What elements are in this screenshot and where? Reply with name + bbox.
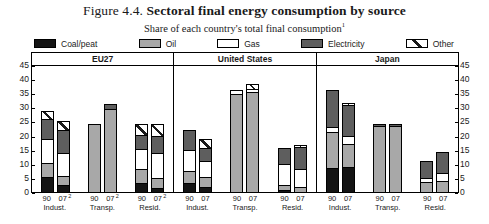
oil-segment — [89, 125, 100, 192]
x-year-label: 90 — [88, 194, 101, 203]
gas-segment — [295, 170, 306, 189]
y-axis-tick-mark — [455, 122, 458, 123]
gas-segment — [200, 162, 211, 178]
x-year-label: 07 — [437, 194, 450, 203]
x-group: 9007Transp. — [373, 194, 402, 220]
y-axis-tick-label: 0 — [3, 188, 29, 196]
y-axis-tick-label: 45 — [460, 61, 486, 69]
x-year-row: 9007 — [326, 194, 355, 203]
oil-segment — [437, 182, 448, 192]
bar-groups — [174, 66, 315, 193]
y-axis-tick-mark — [32, 151, 35, 152]
x-group: 9007Indust. — [183, 194, 212, 220]
y-axis-tick-mark — [455, 151, 458, 152]
oil-segment — [374, 127, 385, 192]
oil-segment — [105, 110, 116, 192]
y-axis-tick-label: 35 — [460, 89, 486, 97]
y-axis-tick-label: 25 — [460, 117, 486, 125]
figure-subtitle: Share of each country's total final cons… — [0, 21, 489, 34]
x-panel: 9007Indust.9007Transp.9007Resid. — [174, 194, 317, 220]
stacked-bar[interactable] — [88, 124, 101, 193]
x-year-label: 90 — [278, 194, 291, 203]
plot-area: EU27United StatesJapan — [31, 52, 459, 193]
panel-header-row: EU27United StatesJapan — [32, 53, 458, 66]
x-year-label: 90 — [135, 194, 148, 203]
stacked-bar[interactable] — [389, 124, 402, 193]
stacked-bar[interactable] — [151, 124, 164, 193]
x-sector-label: Transp. — [90, 203, 115, 213]
panel-title-japan: Japan — [316, 53, 458, 65]
x-year-row: 90072 — [40, 194, 69, 203]
bar-groups — [317, 66, 458, 193]
stacked-bar[interactable] — [246, 84, 259, 193]
stacked-bar[interactable] — [436, 152, 449, 193]
stacked-bar[interactable] — [420, 161, 433, 193]
other-segment — [58, 122, 69, 131]
figure-subtitle-text: Share of each country's total final cons… — [144, 23, 342, 34]
bar-group-indust — [183, 66, 212, 193]
stacked-bar[interactable] — [41, 111, 54, 193]
bar-group-resid — [420, 66, 449, 193]
gas-segment — [343, 137, 354, 145]
oil-segment — [327, 133, 338, 169]
oil-segment — [247, 93, 258, 192]
x-year-row: 90072 — [88, 194, 117, 203]
chart-legend: Coal/peatOilGasElectricityOther — [34, 37, 454, 50]
electricity-segment — [200, 149, 211, 163]
y-axis-tick-label: 30 — [3, 103, 29, 111]
oil-segment — [390, 127, 401, 192]
x-year-label: 90 — [326, 194, 339, 203]
x-group: 9007Transp. — [230, 194, 259, 220]
stacked-bar[interactable] — [342, 103, 355, 193]
x-year-label: 90 — [230, 194, 243, 203]
stacked-bar[interactable] — [199, 139, 212, 193]
legend-label: Oil — [166, 39, 176, 49]
y-axis-left: 454035302520151050 — [3, 52, 29, 193]
gas-segment — [184, 151, 195, 172]
x-year-label: 07 — [389, 194, 402, 203]
coal-segment — [136, 184, 147, 192]
x-group: 90072Resid. — [135, 194, 164, 220]
gas-swatch — [217, 39, 239, 48]
stacked-bar[interactable] — [278, 148, 291, 193]
y-axis-tick-label: 10 — [460, 160, 486, 168]
figure-title-text: Sectoral final energy consumption by sou… — [147, 3, 406, 18]
electricity-segment — [58, 131, 69, 154]
legend-label: Coal/peat — [61, 39, 97, 49]
stacked-bar[interactable] — [104, 104, 117, 193]
x-group: 9007Resid. — [421, 194, 450, 220]
stacked-bar[interactable] — [326, 90, 339, 193]
y-axis-tick-mark — [455, 137, 458, 138]
x-year-label: 072 — [104, 194, 117, 203]
x-groups: 90072Indust.90072Transp.90072Resid. — [31, 194, 174, 220]
y-axis-right: 454035302520151050 — [460, 52, 486, 193]
stacked-bar[interactable] — [230, 90, 243, 193]
bar-group-transp — [230, 66, 259, 193]
x-panel: 90072Indust.90072Transp.90072Resid. — [31, 194, 174, 220]
y-axis-tick-label: 5 — [460, 174, 486, 182]
bar-groups — [32, 66, 173, 193]
other-segment — [136, 125, 147, 136]
stacked-bar[interactable] — [373, 124, 386, 193]
gas-segment — [152, 154, 163, 179]
y-axis-tick-label: 35 — [3, 89, 29, 97]
y-axis-tick-label: 15 — [3, 146, 29, 154]
stacked-bar[interactable] — [135, 124, 148, 193]
stacked-bar[interactable] — [183, 130, 196, 194]
x-group: 90072Indust. — [40, 194, 69, 220]
y-axis-tick-label: 0 — [460, 188, 486, 196]
coal-segment — [279, 191, 290, 192]
other-segment — [152, 125, 163, 138]
y-axis-tick-label: 20 — [460, 132, 486, 140]
stacked-bar[interactable] — [294, 145, 307, 193]
oil-swatch — [139, 39, 161, 48]
y-axis-tick-label: 5 — [3, 174, 29, 182]
bar-group-transp — [88, 66, 117, 193]
y-axis-tick-label: 40 — [3, 75, 29, 83]
stacked-bar[interactable] — [57, 121, 70, 193]
electricity-segment — [327, 91, 338, 128]
panel-title-united-states: United States — [173, 53, 315, 65]
y-axis-tick-label: 10 — [3, 160, 29, 168]
gas-segment — [437, 174, 448, 181]
oil-segment — [58, 177, 69, 186]
